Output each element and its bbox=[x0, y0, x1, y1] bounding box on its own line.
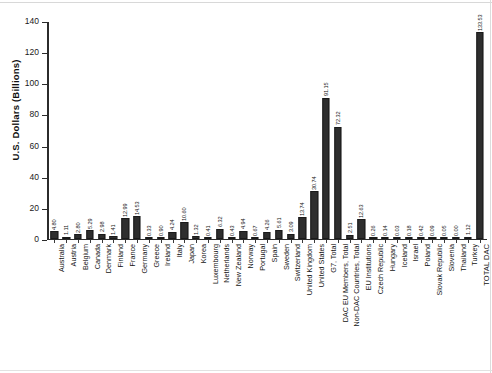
x-axis-tick bbox=[255, 240, 256, 243]
bar-slot[interactable]: 0.67 bbox=[249, 23, 261, 239]
bar[interactable] bbox=[452, 237, 459, 239]
bar-slot[interactable]: 2.98 bbox=[96, 23, 108, 239]
bar-slot[interactable]: 13.74 bbox=[297, 23, 309, 239]
bar-slot[interactable]: 133.53 bbox=[474, 23, 486, 239]
bar[interactable] bbox=[228, 237, 235, 239]
bar-value-label: 13.74 bbox=[299, 202, 305, 216]
bar[interactable] bbox=[405, 237, 412, 239]
bar-slot[interactable]: 0.00 bbox=[450, 23, 462, 239]
x-axis-label: Spain bbox=[270, 244, 279, 364]
bar-slot[interactable]: 12.63 bbox=[356, 23, 368, 239]
bar-slot[interactable]: 2.51 bbox=[344, 23, 356, 239]
bar[interactable] bbox=[346, 235, 353, 239]
bar-slot[interactable]: 0.18 bbox=[403, 23, 415, 239]
bar[interactable] bbox=[181, 222, 188, 238]
bar-slot[interactable]: 30.74 bbox=[308, 23, 320, 239]
bar[interactable] bbox=[157, 237, 164, 239]
bar[interactable] bbox=[63, 237, 70, 239]
bar-slot[interactable]: 72.32 bbox=[332, 23, 344, 239]
chart-figure: U.S. Dollars (Billions) 0204060801001201… bbox=[0, 0, 492, 373]
bar[interactable] bbox=[192, 236, 199, 238]
bar-slot[interactable]: 0.09 bbox=[426, 23, 438, 239]
bar-slot[interactable]: 12.99 bbox=[119, 23, 131, 239]
y-axis-tick-label: 140 bbox=[25, 16, 39, 26]
y-axis-tick-label: 60 bbox=[30, 141, 39, 151]
bar-value-label: 0.42 bbox=[418, 226, 424, 237]
bar[interactable] bbox=[370, 237, 377, 239]
bar[interactable] bbox=[322, 98, 329, 239]
bar-slot[interactable]: 1.41 bbox=[108, 23, 120, 239]
bar-slot[interactable]: 6.32 bbox=[214, 23, 226, 239]
x-axis-label: Turkey bbox=[470, 244, 479, 364]
bar[interactable] bbox=[358, 219, 365, 238]
bar-slot[interactable]: 5.29 bbox=[84, 23, 96, 239]
bar[interactable] bbox=[334, 127, 341, 239]
bar-slot[interactable]: 0.05 bbox=[438, 23, 450, 239]
y-axis-tick: 20 bbox=[42, 209, 47, 210]
bar-value-label: 72.32 bbox=[335, 112, 341, 126]
bar[interactable] bbox=[440, 237, 447, 239]
bar-slot[interactable]: 1.12 bbox=[462, 23, 474, 239]
bar[interactable] bbox=[98, 234, 105, 239]
bar[interactable] bbox=[464, 237, 471, 239]
bar-slot[interactable]: 4.24 bbox=[167, 23, 179, 239]
bar-value-label: 12.63 bbox=[358, 204, 364, 218]
bar-slot[interactable]: 0.33 bbox=[143, 23, 155, 239]
bar-slot[interactable]: 0.03 bbox=[391, 23, 403, 239]
bar[interactable] bbox=[311, 191, 318, 238]
bar[interactable] bbox=[122, 218, 129, 238]
bar[interactable] bbox=[74, 234, 81, 238]
bar-slot[interactable]: 0.41 bbox=[202, 23, 214, 239]
bar[interactable] bbox=[240, 231, 247, 239]
bar-value-label: 1.41 bbox=[110, 224, 116, 235]
bar[interactable] bbox=[216, 229, 223, 239]
bar-slot[interactable]: 1.11 bbox=[60, 23, 72, 239]
bar-slot[interactable]: 0.14 bbox=[379, 23, 391, 239]
bar[interactable] bbox=[169, 232, 176, 239]
bar[interactable] bbox=[145, 237, 152, 239]
bar-value-label: 133.53 bbox=[477, 14, 483, 31]
bar[interactable] bbox=[429, 237, 436, 239]
x-axis-label: Luxembourg bbox=[211, 244, 220, 364]
bar[interactable] bbox=[204, 237, 211, 239]
x-axis-label: Greece bbox=[152, 244, 161, 364]
bar[interactable] bbox=[275, 230, 282, 239]
bar-slot[interactable]: 2.80 bbox=[72, 23, 84, 239]
bar[interactable] bbox=[86, 230, 93, 238]
bar-slot[interactable]: 5.61 bbox=[273, 23, 285, 239]
x-axis-label: Korea bbox=[199, 244, 208, 364]
bar[interactable] bbox=[51, 231, 58, 238]
x-axis-tick bbox=[54, 240, 55, 243]
bar-slot[interactable]: 4.26 bbox=[261, 23, 273, 239]
bar-slot[interactable]: 14.53 bbox=[131, 23, 143, 239]
bar[interactable] bbox=[110, 236, 117, 238]
bar-slot[interactable]: 4.94 bbox=[237, 23, 249, 239]
bar-slot[interactable]: 3.09 bbox=[285, 23, 297, 239]
bar[interactable] bbox=[393, 237, 400, 239]
x-axis-label: Norway bbox=[246, 244, 255, 364]
bar-slot[interactable]: 4.80 bbox=[49, 23, 61, 239]
bar-value-label: 4.94 bbox=[240, 219, 246, 230]
bar-slot[interactable]: 91.15 bbox=[320, 23, 332, 239]
x-axis-tick bbox=[421, 240, 422, 243]
bar[interactable] bbox=[417, 237, 424, 239]
x-axis-tick bbox=[302, 240, 303, 243]
bar-slot[interactable]: 0.42 bbox=[415, 23, 427, 239]
bar-slot[interactable]: 0.43 bbox=[226, 23, 238, 239]
y-axis-tick-label: 20 bbox=[30, 203, 39, 213]
bar-slot[interactable]: 0.90 bbox=[155, 23, 167, 239]
bar[interactable] bbox=[287, 234, 294, 239]
bar[interactable] bbox=[299, 217, 306, 238]
bar[interactable] bbox=[252, 237, 259, 239]
bar-slot[interactable]: 1.32 bbox=[190, 23, 202, 239]
bar[interactable] bbox=[476, 32, 483, 238]
bar-slot[interactable]: 0.26 bbox=[367, 23, 379, 239]
bar[interactable] bbox=[263, 232, 270, 239]
bar-value-label: 6.32 bbox=[217, 217, 223, 228]
bar[interactable] bbox=[381, 237, 388, 239]
bar[interactable] bbox=[133, 216, 140, 238]
bar-value-label: 0.09 bbox=[429, 226, 435, 237]
bar-value-label: 4.26 bbox=[264, 220, 270, 231]
bar-slot[interactable]: 10.60 bbox=[178, 23, 190, 239]
bar-value-label: 0.33 bbox=[146, 226, 152, 237]
